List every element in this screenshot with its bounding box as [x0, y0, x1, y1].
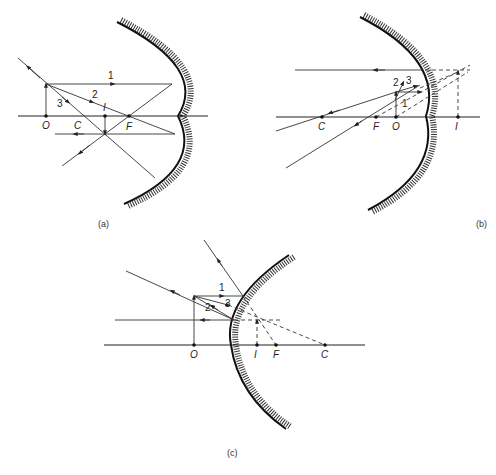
panel-a: O C I F 1 2 3 (a) [18, 20, 208, 229]
ray-label-2: 2 [205, 302, 211, 313]
point-F [127, 114, 131, 118]
ray-label-2: 2 [393, 77, 399, 88]
ray-reflected-arrow [172, 291, 180, 295]
label-I: I [254, 349, 257, 360]
ray-arrow-lower [356, 121, 362, 125]
point-C [323, 343, 327, 347]
ray-1-arrow [80, 145, 90, 153]
point-C [320, 115, 324, 119]
ray-2-line [286, 85, 420, 168]
ray-3-incident [194, 296, 228, 305]
caption-a: (a) [98, 219, 109, 229]
label-F: F [273, 349, 280, 360]
label-I: I [103, 102, 106, 113]
label-C: C [318, 121, 326, 132]
point-F [274, 343, 278, 347]
ray-3-arrow-in [62, 97, 68, 102]
ray-label-1: 1 [402, 98, 408, 109]
ray-2-incident [46, 84, 92, 102]
mirror-hatching [235, 257, 294, 427]
label-F: F [126, 121, 133, 132]
ray-2-arrow [212, 306, 218, 310]
ray-3-arrow-out [28, 67, 40, 78]
ray-arrow [330, 110, 340, 113]
dashed-to-C [228, 305, 325, 345]
point-O [394, 115, 398, 119]
ray-label-3: 3 [57, 98, 63, 109]
caption-b: (b) [476, 219, 487, 229]
dashed-to-F [243, 296, 276, 345]
panel-c: O I F C 1 2 3 (c) [104, 240, 365, 458]
ray-diagram-figure: O C I F 1 2 3 (a) [0, 0, 496, 475]
label-O: O [190, 349, 198, 360]
ray-label-2: 2 [92, 89, 98, 100]
label-C: C [321, 349, 329, 360]
point-I [103, 114, 107, 118]
panel-b: C F O I 1 2 3 (b) [276, 15, 487, 229]
label-F: F [373, 121, 380, 132]
point-I [255, 343, 259, 347]
point-F [374, 115, 378, 119]
point-O [192, 343, 196, 347]
ray-label-1: 1 [108, 70, 114, 81]
ray-label-3: 3 [406, 75, 412, 86]
point-O [44, 114, 48, 118]
caption-c: (c) [227, 448, 238, 458]
label-O: O [42, 120, 50, 131]
concave-mirror [360, 17, 429, 210]
ray-1-arrow [218, 260, 222, 266]
point-I [456, 115, 460, 119]
ray-label-3: 3 [225, 298, 231, 309]
ray-reflected-long [126, 271, 234, 320]
label-C: C [74, 120, 82, 131]
label-O: O [392, 121, 400, 132]
ray-label-1: 1 [219, 282, 225, 293]
label-I: I [455, 121, 458, 132]
